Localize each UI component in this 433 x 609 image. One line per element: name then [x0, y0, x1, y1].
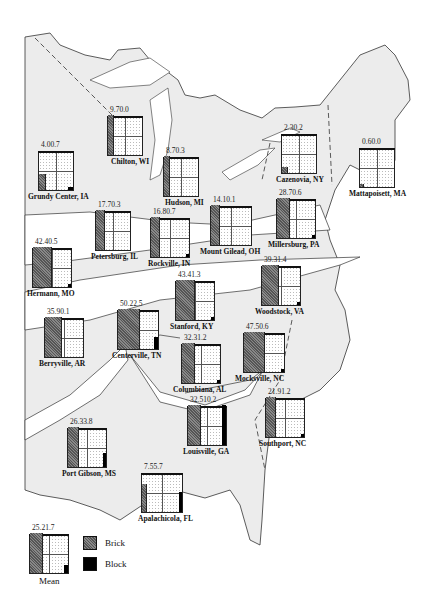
block-bar [297, 302, 300, 305]
brick-value: 4.0 [41, 140, 50, 149]
brick-value: 9.7 [110, 105, 119, 114]
brick-value: 0.6 [362, 137, 371, 146]
brick-bar [164, 156, 170, 196]
brick-bar [39, 174, 46, 190]
brick-swatch-icon [83, 536, 97, 550]
brick-bar [151, 217, 160, 257]
brick-value: 32.3 [184, 333, 197, 342]
brick-bar [266, 397, 276, 437]
brick-value: 43.4 [178, 270, 191, 279]
block-value: 0.2 [293, 123, 302, 132]
block-value: 0.1 [226, 195, 235, 204]
brick-value: 47.5 [246, 322, 259, 331]
block-value: 0.0 [371, 137, 380, 146]
brick-value: 39.3 [264, 255, 277, 264]
brick-bar [68, 427, 79, 467]
brick-value: 17.7 [98, 200, 111, 209]
site-label: Rockville, IN [148, 259, 190, 268]
brick-value: 35.9 [47, 307, 60, 316]
block-value: 0.6 [259, 322, 268, 331]
block-value: 1.4 [277, 255, 286, 264]
site-label: Centerville, TN [112, 351, 161, 360]
site-label: Grundy Center, IA [28, 192, 89, 201]
brick-value: 7.5 [144, 462, 153, 471]
brick-bar [360, 184, 364, 187]
block-value: 0.1 [60, 307, 69, 316]
brick-value: 16.8 [153, 207, 166, 216]
block-bar [103, 453, 106, 467]
site-label: Hudson, MI [165, 198, 204, 207]
block-value: 0.3 [175, 146, 184, 155]
block-value: 0.7 [166, 207, 175, 216]
block-value: 1.2 [197, 333, 206, 342]
brick-value: 8.7 [166, 146, 175, 155]
site-label: Mount Gilead, OH [200, 247, 260, 256]
site-label: Stanford, KY [170, 322, 213, 331]
block-value: 0.0 [119, 105, 128, 114]
brick-bar [282, 167, 288, 173]
brick-value: 21.9 [268, 387, 281, 396]
legend-block-label: Block [105, 559, 127, 569]
site-label: Chilton, WI [111, 157, 149, 166]
site-label: Hermann, MO [27, 289, 75, 298]
site-label: Woodstock, VA [255, 307, 304, 316]
brick-bar [176, 280, 195, 320]
brick-value: 25.2 [32, 523, 45, 532]
brick-bar [211, 205, 220, 245]
block-bar [154, 337, 158, 349]
brick-value: 14.1 [213, 195, 226, 204]
block-value: 0.5 [48, 237, 57, 246]
site-label: Louisville, GA [183, 447, 229, 456]
brick-bar [33, 247, 52, 287]
brick-value: 26.3 [70, 417, 83, 426]
brick-bar [118, 309, 140, 349]
brick-bar [30, 533, 43, 573]
block-bar [64, 565, 68, 573]
block-bar [68, 187, 73, 190]
block-value: 2.5 [133, 299, 142, 308]
block-value: 1.3 [191, 270, 200, 279]
site-label: Cazenovia, NY [276, 175, 324, 184]
brick-bar [244, 332, 265, 372]
block-value: 3.8 [83, 417, 92, 426]
site-label: Mattapoisett, MA [349, 189, 406, 198]
block-bar [301, 434, 304, 437]
block-swatch-icon [83, 557, 97, 571]
brick-value: 32.5 [190, 395, 203, 404]
block-value: 10.2 [203, 395, 216, 404]
site-label: Berryville, AR [39, 359, 85, 368]
site-label: Apalachicola, FL [138, 514, 193, 523]
brick-bar [142, 484, 147, 512]
brick-bar [277, 198, 290, 238]
legend-brick: Brick [83, 536, 125, 550]
block-bar [217, 380, 220, 383]
block-bar [211, 317, 214, 320]
block-bar [179, 492, 182, 512]
site-label: Petersburg, IL [91, 252, 138, 261]
brick-value: 42.4 [35, 237, 48, 246]
brick-bar [96, 210, 105, 250]
site-label: Columbiana, AL [173, 385, 226, 394]
site-label: Southport, NC [259, 439, 306, 448]
legend-block: Block [83, 557, 127, 571]
brick-bar [108, 115, 114, 155]
block-bar [281, 369, 284, 372]
site-label: Mocksville, NC [235, 374, 284, 383]
brick-bar [182, 343, 195, 383]
mean-label: Mean [39, 576, 60, 586]
block-value: 0.6 [292, 188, 301, 197]
brick-bar [262, 265, 279, 305]
block-value: 5.7 [153, 462, 162, 471]
brick-bar [188, 405, 201, 445]
site-label: Port Gibson, MS [62, 469, 116, 478]
block-value: 1.2 [281, 387, 290, 396]
brick-value: 28.7 [279, 188, 292, 197]
site-label: Millersburg, PA [268, 240, 320, 249]
block-bar [186, 254, 189, 257]
block-bar [68, 284, 71, 287]
legend-brick-label: Brick [105, 538, 125, 548]
block-value: 1.7 [45, 523, 54, 532]
block-bar [222, 405, 226, 445]
brick-bar [45, 317, 62, 357]
block-bar [312, 235, 315, 238]
